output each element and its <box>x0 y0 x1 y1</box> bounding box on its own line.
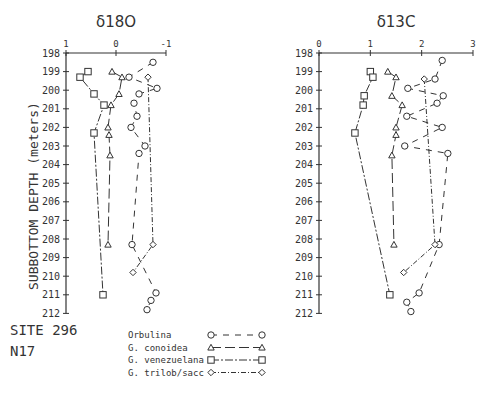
y-tick-label: 199 <box>295 66 313 77</box>
y-tick-label: 211 <box>42 289 60 300</box>
y-tick-label: 201 <box>295 103 313 114</box>
x-tick-label: 1 <box>63 39 68 49</box>
chart-figure: 10-1δ18O19819920020120220320420520620720… <box>0 0 490 394</box>
x-tick-label: 1 <box>368 39 373 49</box>
y-tick-label: 205 <box>42 178 60 189</box>
legend-label: G. venezuelana <box>128 355 204 365</box>
y-tick-label: 207 <box>42 215 60 226</box>
x-tick-label: 0 <box>316 39 321 49</box>
y-tick-label: 206 <box>42 196 60 207</box>
series-line <box>133 77 153 272</box>
panel-title: δ13C <box>377 13 416 31</box>
y-tick-label: 203 <box>42 141 60 152</box>
y-tick-label: 200 <box>295 85 313 96</box>
panel-title: δ18O <box>96 13 136 31</box>
d13c-panel: 0123δ13C19819920020120220320420520620720… <box>295 13 476 319</box>
d18o-panel: 10-1δ18O19819920020120220320420520620720… <box>42 13 171 319</box>
y-tick-label: 207 <box>295 215 313 226</box>
y-tick-label: 208 <box>295 234 313 245</box>
y-tick-label: 204 <box>295 159 313 170</box>
x-tick-label: -1 <box>161 39 172 49</box>
y-tick-label: 212 <box>295 308 313 319</box>
y-axis-label: SUBBOTTOM DEPTH (meters) <box>26 102 41 290</box>
y-tick-label: 210 <box>295 271 313 282</box>
y-tick-label: 202 <box>42 122 60 133</box>
y-tick-label: 209 <box>42 252 60 263</box>
y-tick-label: 200 <box>42 85 60 96</box>
y-tick-label: 208 <box>42 234 60 245</box>
zone-label: N17 <box>10 343 35 359</box>
y-tick-label: 198 <box>295 48 313 59</box>
y-tick-label: 199 <box>42 66 60 77</box>
site-label: SITE 296 <box>10 322 77 338</box>
y-tick-label: 202 <box>295 122 313 133</box>
y-tick-label: 206 <box>295 196 313 207</box>
legend-label: G. trilob/sacc <box>128 368 204 378</box>
y-tick-label: 204 <box>42 159 60 170</box>
y-tick-label: 201 <box>42 103 60 114</box>
x-tick-label: 3 <box>470 39 475 49</box>
y-tick-label: 211 <box>295 289 313 300</box>
y-tick-label: 212 <box>42 308 60 319</box>
y-tick-label: 209 <box>295 252 313 263</box>
x-tick-label: 2 <box>419 39 424 49</box>
x-tick-label: 0 <box>113 39 118 49</box>
legend-label: Orbulina <box>128 330 171 340</box>
legend-label: G. conoidea <box>128 343 188 353</box>
legend: OrbulinaG. conoideaG. venezuelanaG. tril… <box>128 330 265 378</box>
y-tick-label: 210 <box>42 271 60 282</box>
y-tick-label: 205 <box>295 178 313 189</box>
y-tick-label: 198 <box>42 48 60 59</box>
y-tick-label: 203 <box>295 141 313 152</box>
series-line <box>404 79 435 272</box>
